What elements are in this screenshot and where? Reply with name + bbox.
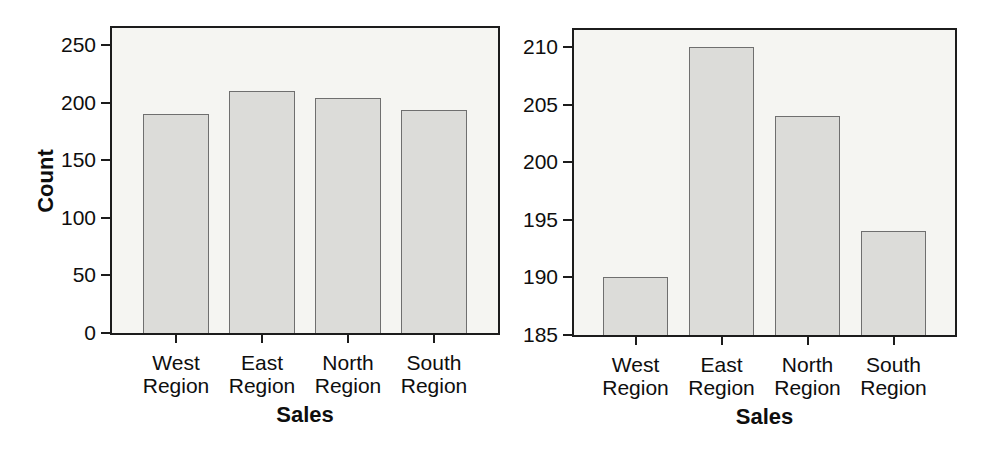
chart-full-scale: Count Sales 050100150200250West RegionEa… [0, 0, 991, 459]
y-tick-label: 190 [512, 265, 558, 289]
y-tick-mark [563, 334, 572, 336]
y-tick-label: 195 [512, 208, 558, 232]
y-tick-label: 100 [50, 206, 96, 230]
x-tick-mark [433, 335, 435, 343]
y-tick-mark [101, 332, 110, 334]
chart-truncated-scale: Sales 185190195200205210West RegionEast … [0, 0, 991, 459]
x-axis-title: Sales [572, 404, 957, 430]
x-category-label: West Region [128, 351, 224, 397]
y-tick-mark [101, 274, 110, 276]
bar-east-region [689, 47, 754, 335]
y-tick-mark [101, 102, 110, 104]
x-tick-mark [893, 337, 895, 345]
dual-bar-chart-figure: Count Sales 050100150200250West RegionEa… [0, 0, 991, 459]
x-tick-mark [347, 335, 349, 343]
bar-west-region [603, 277, 668, 335]
x-axis-title: Sales [110, 402, 500, 428]
x-category-label: South Region [386, 351, 482, 397]
bar-north-region [775, 116, 840, 335]
y-tick-mark [563, 161, 572, 163]
y-tick-label: 50 [50, 263, 96, 287]
x-tick-mark [635, 337, 637, 345]
x-tick-mark [721, 337, 723, 345]
y-tick-mark [101, 159, 110, 161]
y-tick-label: 205 [512, 93, 558, 117]
bar-south-region [861, 231, 926, 335]
y-tick-mark [101, 44, 110, 46]
y-tick-label: 250 [50, 33, 96, 57]
x-category-label: East Region [674, 353, 770, 399]
x-category-label: East Region [214, 351, 310, 397]
y-tick-label: 200 [50, 91, 96, 115]
y-tick-mark [563, 219, 572, 221]
y-tick-label: 150 [50, 148, 96, 172]
bar-east-region [229, 91, 295, 333]
y-tick-mark [563, 46, 572, 48]
x-category-label: North Region [300, 351, 396, 397]
bar-north-region [315, 98, 381, 333]
y-tick-label: 200 [512, 150, 558, 174]
y-tick-mark [563, 104, 572, 106]
y-tick-label: 0 [50, 321, 96, 345]
x-category-label: North Region [760, 353, 856, 399]
bar-west-region [143, 114, 209, 333]
bar-south-region [401, 110, 467, 333]
x-category-label: South Region [846, 353, 942, 399]
plot-area-left [110, 26, 500, 335]
x-tick-mark [261, 335, 263, 343]
x-category-label: West Region [588, 353, 684, 399]
y-tick-label: 210 [512, 35, 558, 59]
x-tick-mark [807, 337, 809, 345]
y-tick-mark [101, 217, 110, 219]
x-tick-mark [175, 335, 177, 343]
y-axis-title: Count [33, 149, 59, 213]
plot-area-right [572, 28, 957, 337]
y-tick-mark [563, 276, 572, 278]
y-tick-label: 185 [512, 323, 558, 347]
